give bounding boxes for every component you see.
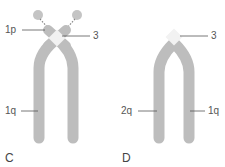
panel-label-c: C bbox=[5, 152, 14, 164]
satellite-right-icon bbox=[72, 10, 82, 20]
label-1q-c: 1q bbox=[5, 106, 16, 116]
label-3-c: 3 bbox=[93, 31, 99, 41]
chromatid-right bbox=[56, 38, 73, 138]
diagram-canvas bbox=[0, 0, 225, 167]
chromatid-1q bbox=[175, 44, 189, 138]
panel-label-d: D bbox=[122, 152, 131, 164]
chromosome-diagram: 1p 3 1q C 3 2q 1q D bbox=[0, 0, 225, 167]
label-1p: 1p bbox=[5, 25, 16, 35]
label-2q: 2q bbox=[121, 106, 132, 116]
panel-c-chromosome bbox=[21, 10, 90, 138]
satellite-left-icon bbox=[33, 10, 43, 20]
chromatid-left bbox=[39, 38, 58, 138]
panel-d-chromosome bbox=[138, 29, 208, 138]
label-3-d: 3 bbox=[211, 31, 217, 41]
label-1q-d: 1q bbox=[208, 106, 219, 116]
chromatid-2q bbox=[159, 44, 173, 138]
